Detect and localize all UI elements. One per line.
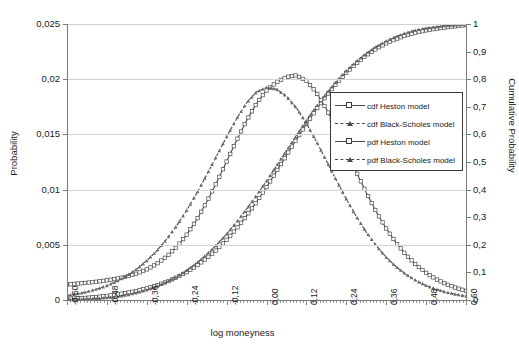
x-axis-minor-tick [400, 301, 401, 303]
series-marker [435, 278, 438, 281]
series-marker [457, 287, 460, 290]
series-marker [406, 255, 409, 258]
series-marker [268, 180, 271, 183]
x-axis-minor-tick [413, 301, 414, 303]
series-marker [203, 204, 206, 207]
legend-item: pdf Black-Scholes model [335, 151, 462, 169]
gridline [67, 79, 466, 80]
x-axis-tick-label: 0,12 [310, 288, 319, 305]
x-axis-minor-tick [183, 301, 184, 303]
x-axis-minor-tick [306, 301, 307, 303]
series-marker [417, 265, 420, 268]
series-marker [214, 249, 217, 252]
series-marker [301, 116, 305, 119]
x-axis-minor-tick [67, 301, 68, 303]
x-axis-minor-tick [333, 301, 334, 303]
x-axis-minor-tick [406, 301, 407, 303]
x-axis-minor-tick [137, 301, 138, 303]
series-marker [388, 232, 391, 235]
x-axis-minor-tick [296, 301, 297, 303]
x-axis-minor-tick [210, 301, 211, 303]
series-marker [403, 251, 406, 254]
series-marker [308, 128, 312, 131]
x-axis-minor-tick [163, 301, 164, 303]
series-marker [203, 258, 206, 261]
right-axis-tick [467, 52, 471, 53]
x-axis-minor-tick [207, 301, 208, 303]
series-marker [91, 280, 94, 283]
series-marker [428, 273, 431, 276]
series-marker [189, 228, 192, 231]
series-marker [261, 87, 265, 90]
left-axis-title: Probability [8, 114, 19, 194]
series-marker [232, 230, 235, 233]
legend-square-marker-icon [335, 101, 365, 111]
series-marker [185, 233, 188, 236]
series-marker [374, 208, 377, 211]
series-marker [279, 157, 283, 160]
series-marker [272, 83, 275, 86]
series-marker [254, 103, 257, 106]
series-marker [366, 233, 370, 236]
series-marker [272, 174, 275, 177]
x-axis-minor-tick [240, 301, 241, 303]
series-marker [370, 238, 374, 241]
right-axis-tick-label: 0,3 [473, 212, 486, 222]
right-axis-tick-label: 0,1 [473, 267, 486, 277]
series-marker [156, 262, 159, 265]
x-axis-minor-tick [366, 301, 367, 303]
series-marker [450, 284, 453, 287]
right-axis-tick-label: 0,4 [473, 185, 486, 195]
x-axis-minor-tick [340, 301, 341, 303]
right-axis-tick [467, 272, 471, 273]
x-axis-minor-tick [409, 301, 410, 303]
x-axis-tick-label: 0,24 [350, 288, 359, 305]
series-marker [185, 208, 189, 211]
left-axis-tick [63, 245, 67, 246]
x-axis-minor-tick [403, 301, 404, 303]
x-axis-minor-tick [360, 301, 361, 303]
x-axis-minor-tick [416, 301, 417, 303]
series-marker [181, 237, 184, 240]
series-marker [276, 168, 279, 171]
series-marker [261, 94, 264, 97]
series-marker [290, 74, 293, 77]
right-axis-title: Cumulative Probability [507, 61, 518, 191]
x-axis-minor-tick [167, 301, 168, 303]
x-axis-minor-tick [140, 301, 141, 303]
x-axis-tick-label: -0,60 [71, 286, 80, 305]
series-marker [225, 135, 229, 138]
series-marker [247, 212, 250, 215]
series-marker [236, 219, 240, 222]
series-marker [359, 56, 363, 59]
left-axis-tick-label: 0 [0, 295, 60, 305]
x-axis-minor-tick [160, 301, 161, 303]
x-axis-minor-tick [280, 301, 281, 303]
series-marker [200, 261, 203, 264]
series-marker [348, 203, 352, 206]
series-marker [290, 145, 293, 148]
series-marker [243, 104, 247, 107]
series-marker [83, 281, 86, 284]
left-axis-tick-label: 0,005 [0, 240, 60, 250]
series-marker [199, 183, 203, 186]
series-marker [210, 252, 213, 255]
series-marker [301, 128, 304, 131]
series-marker [439, 280, 442, 283]
series-marker [312, 112, 315, 115]
x-axis-minor-tick [87, 301, 88, 303]
x-axis-minor-tick [263, 301, 264, 303]
x-axis-minor-tick [180, 301, 181, 303]
x-axis-minor-tick [100, 301, 101, 303]
series-marker [149, 266, 152, 269]
legend-triangle-marker-icon [335, 119, 365, 129]
series-marker [446, 283, 449, 286]
series-marker [98, 286, 102, 289]
right-axis-tick [467, 79, 471, 80]
series-marker [377, 215, 380, 218]
x-axis-minor-tick [326, 301, 327, 303]
x-axis-minor-tick [343, 301, 344, 303]
series-marker [87, 281, 90, 284]
x-axis-minor-tick [250, 301, 251, 303]
series-marker [359, 180, 362, 183]
